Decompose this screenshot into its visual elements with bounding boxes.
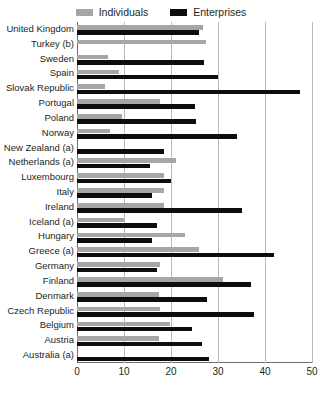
bar-row <box>77 333 312 348</box>
category-label: Portugal <box>0 98 74 108</box>
bar-individuals <box>77 40 206 45</box>
category-label: Sweden <box>0 54 74 64</box>
bar-enterprises <box>77 104 195 109</box>
category-label: Australia (a) <box>0 350 74 360</box>
bar-row <box>77 289 312 304</box>
bar-individuals <box>77 203 164 208</box>
category-label: United Kingdom <box>0 24 74 34</box>
legend-entry: Individuals <box>76 7 149 18</box>
legend-entry: Enterprises <box>170 7 246 18</box>
bar-individuals <box>77 292 159 297</box>
bar-row <box>77 96 312 111</box>
bar-individuals <box>77 218 124 223</box>
bar-enterprises <box>77 30 199 35</box>
category-label: Finland <box>0 276 74 286</box>
category-label: Luxembourg <box>0 172 74 182</box>
bar-row <box>77 319 312 334</box>
bar-individuals <box>77 158 176 163</box>
category-label: Slovak Republic <box>0 83 74 93</box>
x-tick-label: 40 <box>259 366 270 378</box>
bar-individuals <box>77 99 160 104</box>
category-label: Austria <box>0 335 74 345</box>
category-label: New Zealand (a) <box>0 143 74 153</box>
bar-individuals <box>77 233 185 238</box>
category-label: Iceland (a) <box>0 217 74 227</box>
category-label: Greece (a) <box>0 246 74 256</box>
bar-individuals <box>77 277 223 282</box>
bar-row <box>77 155 312 170</box>
bar-individuals <box>77 247 199 252</box>
bar-row <box>77 81 312 96</box>
bar-row <box>77 141 312 156</box>
bar-enterprises <box>77 60 204 65</box>
bar-enterprises <box>77 193 152 198</box>
x-tick-label: 10 <box>118 366 129 378</box>
category-label: Belgium <box>0 320 74 330</box>
category-label: Poland <box>0 113 74 123</box>
bar-enterprises <box>77 342 202 347</box>
bar-enterprises <box>77 238 152 243</box>
bar-enterprises <box>77 134 237 139</box>
legend-label: Individuals <box>99 7 149 18</box>
bar-individuals <box>77 262 160 267</box>
category-label: Denmark <box>0 291 74 301</box>
bar-row <box>77 244 312 259</box>
bar-enterprises <box>77 268 157 273</box>
bar-enterprises <box>77 119 196 124</box>
category-label: Italy <box>0 187 74 197</box>
bar-enterprises <box>77 149 164 154</box>
bar-row <box>77 37 312 52</box>
bar-individuals <box>77 70 119 75</box>
bar-row <box>77 170 312 185</box>
bar-enterprises <box>77 312 254 317</box>
bar-row <box>77 52 312 67</box>
x-tick-label: 50 <box>306 366 317 378</box>
bar-enterprises <box>77 282 251 287</box>
category-label: Norway <box>0 128 74 138</box>
bar-rows <box>77 22 312 363</box>
chart-legend: IndividualsEnterprises <box>0 2 322 22</box>
bar-individuals <box>77 84 105 89</box>
bar-individuals <box>77 307 160 312</box>
plot-area <box>77 22 312 363</box>
bar-row <box>77 348 312 363</box>
bar-individuals <box>77 114 122 119</box>
category-label: Germany <box>0 261 74 271</box>
x-tick-label: 30 <box>212 366 223 378</box>
bar-row <box>77 22 312 37</box>
category-label: Ireland <box>0 202 74 212</box>
individuals-swatch <box>76 9 93 16</box>
x-tick-label: 20 <box>165 366 176 378</box>
bar-row <box>77 230 312 245</box>
bar-row <box>77 111 312 126</box>
category-label: Turkey (b) <box>0 39 74 49</box>
bar-row <box>77 215 312 230</box>
bar-row <box>77 126 312 141</box>
bar-row <box>77 66 312 81</box>
bar-individuals <box>77 336 159 341</box>
category-label: Hungary <box>0 231 74 241</box>
bar-enterprises <box>77 90 300 95</box>
bar-enterprises <box>77 75 218 80</box>
bar-individuals <box>77 173 164 178</box>
bar-enterprises <box>77 164 150 169</box>
category-label: Spain <box>0 68 74 78</box>
bar-individuals <box>77 55 108 60</box>
category-label: Czech Republic <box>0 306 74 316</box>
bar-individuals <box>77 188 164 193</box>
x-tick-label: 0 <box>74 366 80 378</box>
bar-row <box>77 304 312 319</box>
bar-enterprises <box>77 327 192 332</box>
bar-row <box>77 185 312 200</box>
bar-row <box>77 259 312 274</box>
horizontal-bar-chart: IndividualsEnterprises United KingdomTur… <box>0 0 322 394</box>
bar-row <box>77 274 312 289</box>
enterprises-swatch <box>170 9 187 16</box>
category-label: Netherlands (a) <box>0 157 74 167</box>
bar-row <box>77 200 312 215</box>
gridline <box>312 22 313 363</box>
legend-label: Enterprises <box>193 7 246 18</box>
category-labels: United KingdomTurkey (b)SwedenSpainSlova… <box>0 22 74 363</box>
bar-enterprises <box>77 357 209 362</box>
bar-enterprises <box>77 208 242 213</box>
